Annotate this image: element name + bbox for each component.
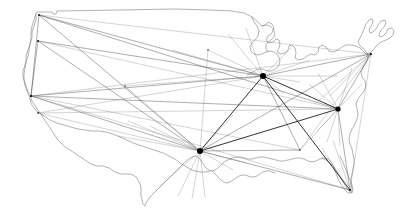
route-line (38, 41, 200, 151)
map-svg-canvas (0, 0, 409, 212)
hub-spoke-line (315, 54, 371, 104)
hub-spoke-line (128, 121, 200, 151)
airport-node (349, 189, 351, 191)
hub-spoke-line (172, 50, 263, 76)
route-line (263, 76, 300, 150)
airport-node (299, 149, 300, 150)
route-line (31, 96, 300, 150)
route-line (31, 54, 371, 96)
route-line (38, 109, 338, 113)
hub-spoke-line (160, 151, 200, 186)
route-line (125, 76, 263, 86)
airport-node (38, 14, 40, 16)
hub-spoke-line (200, 151, 205, 197)
hub-spoke-line (338, 68, 352, 109)
airport-node (207, 49, 208, 50)
route-line (38, 41, 338, 109)
route-network-map (0, 0, 409, 212)
route-line (38, 113, 200, 151)
airport-node (37, 40, 39, 42)
airport-node (37, 112, 39, 114)
airport-node (30, 95, 32, 97)
route-line (300, 54, 371, 150)
route-line (31, 76, 263, 96)
hub-spoke-line (327, 109, 338, 142)
hub-airport-node (335, 106, 340, 111)
hub-spoke-line (333, 140, 350, 190)
hub-spoke-line (192, 151, 200, 199)
route-line (31, 96, 338, 109)
route-line (200, 76, 263, 151)
lake-michigan-outline-path (262, 25, 275, 52)
route-line (200, 50, 208, 151)
route-line (39, 15, 371, 54)
route-line (38, 41, 263, 76)
route-line (125, 86, 200, 151)
hub-spoke-line (200, 151, 233, 170)
route-line (31, 41, 38, 96)
route-line (263, 76, 338, 109)
hub-spoke-line (178, 151, 200, 196)
flight-routes-layer (31, 15, 371, 190)
texas-gulf-coast-path (212, 171, 275, 183)
hub-spoke-line (338, 84, 362, 109)
route-line (39, 15, 263, 76)
hub-airport-node (260, 73, 266, 79)
route-line (39, 15, 200, 151)
route-line (39, 15, 338, 109)
route-line (338, 109, 350, 190)
hub-spoke-line (330, 54, 371, 96)
airport-nodes-layer (30, 14, 372, 191)
route-line (338, 54, 371, 109)
route-line (200, 109, 338, 151)
hub-spoke-line (263, 76, 300, 82)
airport-node (124, 85, 125, 86)
route-line (350, 54, 371, 190)
route-line (38, 76, 263, 113)
hub-spoke-line (118, 136, 200, 151)
route-line (263, 76, 350, 190)
hub-spoke-line (246, 28, 263, 76)
hub-airport-node (197, 148, 203, 154)
route-line (31, 15, 39, 96)
route-line (31, 96, 200, 151)
airport-node (370, 53, 372, 55)
